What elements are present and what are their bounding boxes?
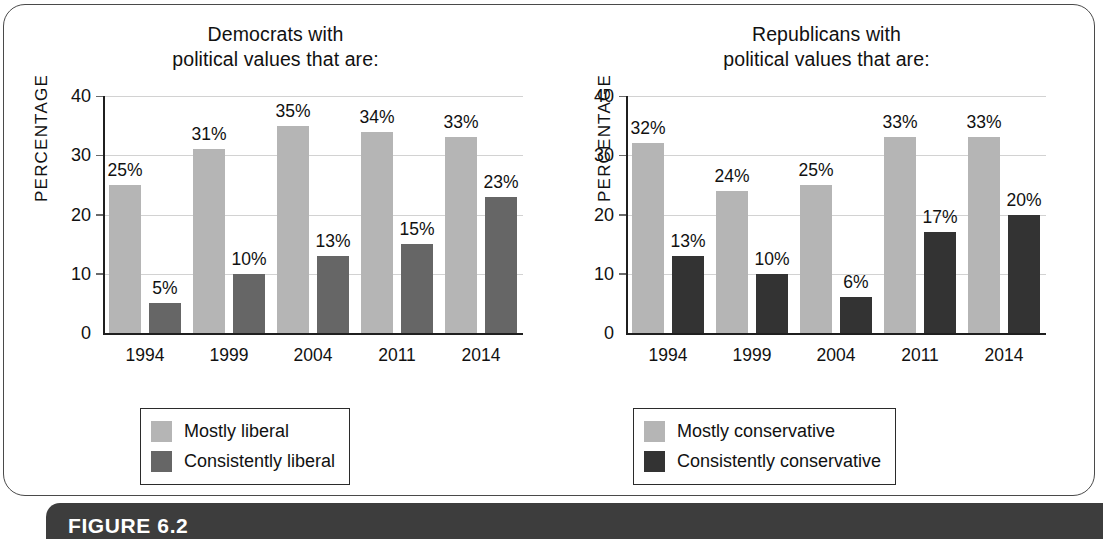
bar-value-label: 13% [670,231,705,252]
gridline [103,96,523,97]
legend-row[interactable]: Mostly liberal [151,416,335,446]
bar-value-label: 13% [315,231,350,252]
bar-value-label: 23% [483,172,518,193]
bar[interactable] [672,256,704,333]
bar[interactable] [317,256,349,333]
y-axis-line [626,96,628,335]
y-axis-label-democrats: PERCENTAGE [32,38,52,238]
x-tick-label: 1999 [733,345,772,366]
bar[interactable] [193,149,225,333]
legend-swatch-consistently-liberal [151,451,172,472]
bar[interactable] [233,274,265,333]
bar[interactable] [401,244,433,333]
charts-row: Democrats with political values that are… [0,0,1103,496]
y-tick-mark [96,273,103,275]
bar[interactable] [277,126,309,333]
legend-swatch-consistently-conservative [644,451,665,472]
bar-value-label: 35% [275,101,310,122]
y-tick-label: 20 [574,204,614,225]
bar-value-label: 32% [630,118,665,139]
y-tick-label: 0 [51,323,91,344]
x-tick-label: 2011 [378,345,416,366]
figure-page: Democrats with political values that are… [0,0,1103,539]
y-tick-mark [619,273,626,275]
y-tick-label: 20 [51,204,91,225]
bar-value-label: 10% [754,249,789,270]
x-tick-label: 2014 [985,345,1024,366]
y-tick-label: 40 [51,86,91,107]
bar-value-label: 33% [443,112,478,133]
x-tick-label: 2004 [817,345,856,366]
legend-democrats: Mostly liberal Consistently liberal [140,408,350,485]
plot-area-republicans: PERCENTAGE 01020304032%13%199424%10%1999… [551,0,1102,400]
y-tick-label: 0 [574,323,614,344]
bar[interactable] [109,185,141,333]
bar[interactable] [445,137,477,333]
bar-value-label: 33% [966,112,1001,133]
bar[interactable] [840,297,872,333]
legend-label-mostly-conservative: Mostly conservative [677,421,835,442]
bar-value-label: 25% [798,160,833,181]
y-tick-label: 10 [51,263,91,284]
y-tick-mark [619,96,626,98]
legend-row[interactable]: Consistently liberal [151,446,335,476]
x-tick-label: 1999 [210,345,249,366]
bar[interactable] [924,232,956,333]
legend-swatch-mostly-liberal [151,421,172,442]
bar-value-label: 25% [107,160,142,181]
y-tick-label: 10 [574,263,614,284]
legend-label-consistently-liberal: Consistently liberal [184,451,335,472]
y-tick-mark [619,214,626,216]
bar[interactable] [361,132,393,333]
gridline [626,96,1046,97]
bar[interactable] [149,303,181,333]
x-axis-line [626,333,1046,335]
x-axis-line [103,333,523,335]
legend-label-mostly-liberal: Mostly liberal [184,421,289,442]
y-tick-mark [96,155,103,157]
bar[interactable] [968,137,1000,333]
figure-caption-text: FIGURE 6.2 [68,514,188,538]
x-tick-label: 2004 [294,345,333,366]
y-tick-mark [96,96,103,98]
bar-value-label: 17% [922,207,957,228]
bar-value-label: 33% [882,112,917,133]
legend-row[interactable]: Mostly conservative [644,416,881,446]
bar-value-label: 6% [843,272,868,293]
legend-label-consistently-conservative: Consistently conservative [677,451,881,472]
x-tick-label: 1994 [126,345,165,366]
chart-democrats: Democrats with political values that are… [0,0,551,496]
bar[interactable] [884,137,916,333]
bar[interactable] [485,197,517,333]
bar[interactable] [632,143,664,333]
figure-caption-bar: FIGURE 6.2 [46,503,1103,539]
bar[interactable] [800,185,832,333]
y-tick-label: 30 [51,145,91,166]
y-tick-label: 30 [574,145,614,166]
bar-value-label: 10% [231,249,266,270]
y-axis-line [103,96,105,335]
bar[interactable] [1008,215,1040,334]
bar-value-label: 34% [359,107,394,128]
bar[interactable] [756,274,788,333]
bar-value-label: 31% [191,124,226,145]
plot-area-democrats: PERCENTAGE 01020304025%5%199431%10%19993… [0,0,551,400]
bar-value-label: 15% [399,219,434,240]
y-tick-label: 40 [574,86,614,107]
bar-value-label: 20% [1006,190,1041,211]
y-tick-mark [619,155,626,157]
legend-row[interactable]: Consistently conservative [644,446,881,476]
bar-value-label: 5% [152,278,177,299]
legend-swatch-mostly-conservative [644,421,665,442]
x-tick-label: 2014 [462,345,501,366]
bar[interactable] [716,191,748,333]
x-tick-label: 1994 [649,345,688,366]
bar-value-label: 24% [714,166,749,187]
y-tick-mark [96,214,103,216]
chart-republicans: Republicans with political values that a… [551,0,1102,496]
x-tick-label: 2011 [901,345,939,366]
legend-republicans: Mostly conservative Consistently conserv… [633,408,896,485]
